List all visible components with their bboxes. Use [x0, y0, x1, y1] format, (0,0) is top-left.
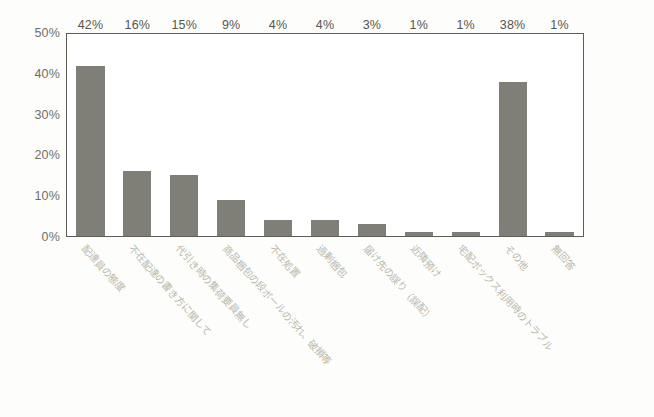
bar: 1% [405, 232, 433, 236]
bar-value-label: 1% [456, 18, 474, 32]
bar: 38% [499, 82, 527, 236]
bar-chart: 0% 10% 20% 30% 40% 50% 42%16%15%9%4%4%3%… [0, 0, 654, 417]
bar-group: 42% [67, 34, 114, 236]
scanned-page-background: 0% 10% 20% 30% 40% 50% 42%16%15%9%4%4%3%… [0, 0, 654, 417]
bar: 9% [217, 200, 245, 236]
x-axis-label-slot: 商品梱包の段ボールの汚れ、破損等 [207, 239, 254, 414]
bar: 1% [545, 232, 573, 236]
x-axis-labels: 配達員の態度不在配達の書き方に関して代引き時の集荷要員無し商品梱包の段ボールの汚… [66, 239, 584, 414]
y-axis-tick-4: 40% [20, 68, 60, 81]
bar-value-label: 1% [410, 18, 428, 32]
x-axis-label-slot: 無回答 [537, 239, 584, 414]
y-axis-tick-5: 50% [20, 27, 60, 40]
bar-value-label: 38% [500, 18, 526, 32]
bar-group: 1% [442, 34, 489, 236]
x-axis-label-slot: 不在配達の書き方に関して [113, 239, 160, 414]
bar-series: 42%16%15%9%4%4%3%1%1%38%1% [67, 34, 583, 236]
bar-group: 1% [536, 34, 583, 236]
bar-value-label: 15% [171, 18, 197, 32]
y-axis: 0% 10% 20% 30% 40% 50% [18, 0, 60, 417]
bar-value-label: 42% [78, 18, 104, 32]
bar: 42% [76, 66, 104, 236]
x-axis-label: その他 [502, 241, 533, 273]
x-axis-label-slot: 宅配ボックス利用時のトラブル [443, 239, 490, 414]
y-axis-tick-1: 10% [20, 190, 60, 203]
bar-value-label: 4% [269, 18, 287, 32]
bar-value-label: 1% [550, 18, 568, 32]
bar-value-label: 4% [316, 18, 334, 32]
y-axis-tick-0: 0% [20, 231, 60, 244]
bar-group: 4% [302, 34, 349, 236]
bar: 3% [358, 224, 386, 236]
bar-group: 4% [255, 34, 302, 236]
bar: 1% [452, 232, 480, 236]
bar-group: 3% [348, 34, 395, 236]
x-axis-label-slot: 代引き時の集荷要員無し [160, 239, 207, 414]
bar-group: 1% [395, 34, 442, 236]
bar-value-label: 9% [222, 18, 240, 32]
bar: 4% [264, 220, 292, 236]
bar-group: 16% [114, 34, 161, 236]
x-axis-label-slot: 不在処置 [254, 239, 301, 414]
x-axis-label: 不在処置 [267, 241, 304, 280]
bar: 16% [123, 171, 151, 236]
x-axis-label: 無回答 [549, 241, 580, 273]
bar-group: 38% [489, 34, 536, 236]
bar-group: 15% [161, 34, 208, 236]
y-axis-tick-3: 30% [20, 108, 60, 121]
x-axis-label-slot: その他 [490, 239, 537, 414]
x-axis-label-slot: 近隣預け [396, 239, 443, 414]
x-axis-label-slot: 届け先の誤り（誤配） [349, 239, 396, 414]
plot-area: 42%16%15%9%4%4%3%1%1%38%1% [66, 33, 584, 237]
y-axis-tick-2: 20% [20, 149, 60, 162]
x-axis-label: 近隣預け [408, 241, 445, 280]
bar: 4% [311, 220, 339, 236]
bar-group: 9% [208, 34, 255, 236]
bar: 15% [170, 175, 198, 236]
x-axis-label-slot: 過剰梱包 [301, 239, 348, 414]
bar-value-label: 3% [363, 18, 381, 32]
x-axis-label: 過剰梱包 [314, 241, 351, 280]
bar-value-label: 16% [125, 18, 151, 32]
x-axis-label-slot: 配達員の態度 [66, 239, 113, 414]
